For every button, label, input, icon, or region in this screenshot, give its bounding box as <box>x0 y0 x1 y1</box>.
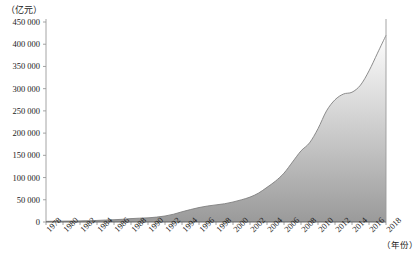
y-tick-label: 400 000 <box>0 39 40 49</box>
y-tick-label: 100 000 <box>0 173 40 183</box>
y-tick-label: 450 000 <box>0 17 40 27</box>
y-tick-label: 300 000 <box>0 84 40 94</box>
area-fill <box>46 35 386 222</box>
y-tick-label: 150 000 <box>0 150 40 160</box>
y-tick-label: 350 000 <box>0 61 40 71</box>
y-tick-label: 50 000 <box>0 195 40 205</box>
y-tick-label: 250 000 <box>0 106 40 116</box>
chart-container: （亿元） （年份） 050 000100 000150 000200 00025… <box>0 0 419 261</box>
y-tick-label: 0 <box>0 217 40 227</box>
y-tick-label: 200 000 <box>0 128 40 138</box>
